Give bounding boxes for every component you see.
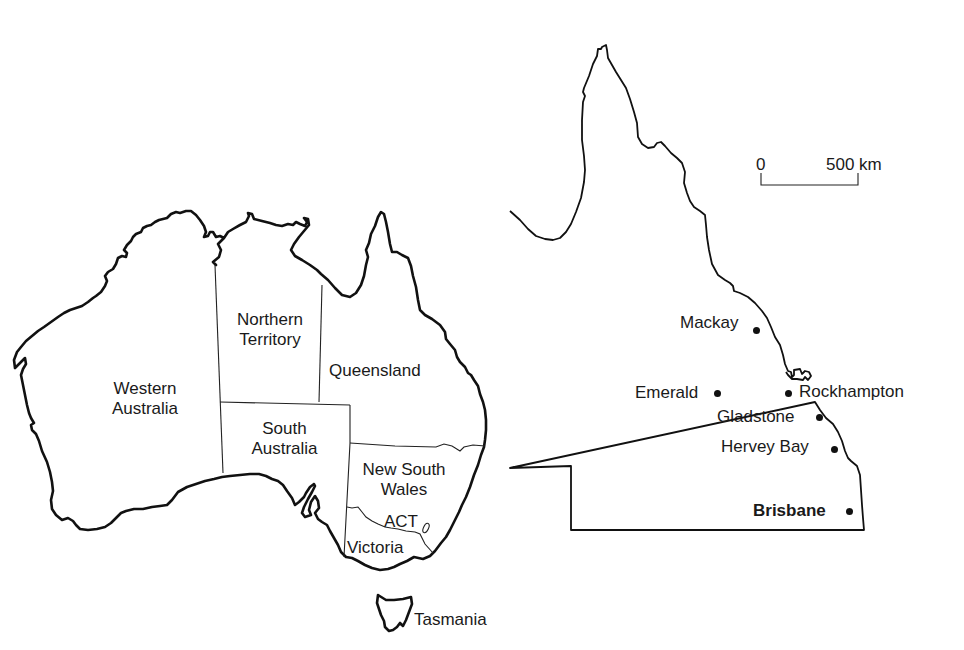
city-label-mackay: Mackay [680,313,739,333]
label-act: ACT [384,512,418,532]
queensland-enlarged-outline [510,45,864,530]
border-wa-nt-sa [215,265,223,473]
act-outline [422,522,431,533]
map-canvas [0,0,964,650]
label-western-australia: Western Australia [90,379,200,419]
scale-start-label: 0 [756,155,765,175]
scale-end-label: 500 km [826,155,882,175]
city-dot-hervey-bay [831,446,838,453]
label-south-australia: South Australia [232,419,337,459]
label-line: New South [352,460,456,480]
label-line: Northern [220,310,320,330]
label-tasmania: Tasmania [414,610,487,630]
city-label-emerald: Emerald [635,383,698,403]
city-dot-rockhampton [785,390,792,397]
city-dot-mackay [753,327,760,334]
city-dot-gladstone [816,414,823,421]
label-line: South [232,419,337,439]
label-line: Western [90,379,200,399]
label-line: ACT [384,512,418,532]
label-line: Victoria [347,538,403,558]
tasmania-outline [377,595,412,631]
border-nt-sa [220,402,350,405]
city-label-gladstone: Gladstone [717,407,795,427]
border-qld-nsw [350,443,485,451]
city-dot-emerald [714,390,721,397]
city-label-brisbane: Brisbane [753,501,826,521]
label-line: Australia [232,439,337,459]
city-dot-brisbane [846,508,853,515]
label-line: Territory [220,330,320,350]
border-sa-east [344,405,350,557]
label-line: Australia [90,399,200,419]
label-northern-territory: Northern Territory [220,310,320,350]
label-new-south-wales: New South Wales [352,460,456,500]
label-line: Tasmania [414,610,487,630]
city-label-hervey-bay: Hervey Bay [721,437,809,457]
label-victoria: Victoria [347,538,403,558]
label-line: Queensland [329,361,421,381]
city-label-rockhampton: Rockhampton [799,382,904,402]
label-line: Wales [352,480,456,500]
label-queensland: Queensland [329,361,421,381]
